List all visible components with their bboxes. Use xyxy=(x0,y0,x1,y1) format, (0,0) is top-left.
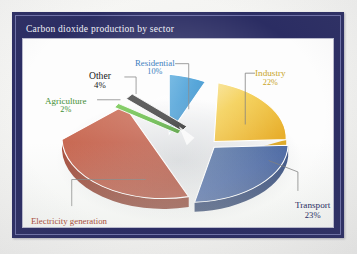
pie-label-industry-percent: 22% xyxy=(255,79,286,88)
chart-frame: Carbon dioxide production by sector xyxy=(12,12,344,238)
pie-label-transport-percent: 23% xyxy=(295,211,330,220)
pie-label-residential: Residential 10% xyxy=(135,59,175,77)
pie-label-agriculture-percent: 2% xyxy=(45,106,86,115)
pie-label-other: Other 4% xyxy=(89,71,111,90)
pie-label-electricity-generation-percent: 39% xyxy=(31,226,107,228)
pie-chart xyxy=(23,39,333,227)
chart-frame-inner-edge: Carbon dioxide production by sector xyxy=(15,15,341,235)
pie-label-other-percent: 4% xyxy=(89,81,111,90)
pie-label-agriculture: Agriculture 2% xyxy=(45,97,86,115)
chart-title-bar: Carbon dioxide production by sector xyxy=(22,21,334,37)
chart-plot-area: Residential 10% Other 4% Agriculture 2% … xyxy=(22,38,334,228)
pie-label-transport: Transport 23% xyxy=(295,201,330,220)
page-title: Carbon dioxide production by sector xyxy=(22,24,174,34)
pie-label-industry: Industry 22% xyxy=(255,69,286,87)
scanned-page: Carbon dioxide production by sector xyxy=(0,0,357,254)
pie-label-residential-percent: 10% xyxy=(135,68,175,77)
leader-other xyxy=(124,77,136,94)
pie-label-electricity-generation: Electricity generation 39% xyxy=(31,217,107,228)
